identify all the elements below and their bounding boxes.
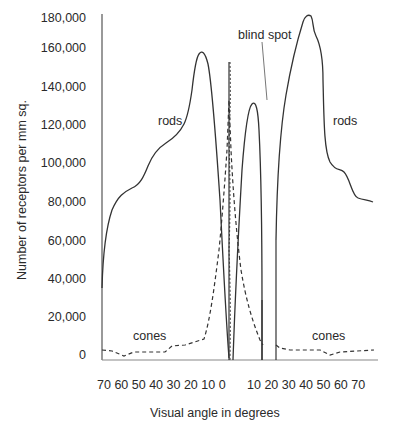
y-tick-0: 0 <box>6 348 86 362</box>
annotation-cones-right: cones <box>312 329 345 343</box>
annotation-rods-right: rods <box>333 114 357 128</box>
x-ticks-left: 70 60 50 40 30 20 10 0 <box>97 378 226 392</box>
x-axis-label: Visual angle in degrees <box>150 406 280 420</box>
chart-plot-area <box>0 0 395 434</box>
rods-curve-right <box>276 15 373 240</box>
annotation-rods-left: rods <box>158 114 182 128</box>
y-axis-label: Number of receptors per mm sq. <box>15 80 29 300</box>
blind-spot-pointer <box>262 42 267 100</box>
cones-curve <box>102 100 374 356</box>
annotation-blind-spot: blind spot <box>238 28 292 42</box>
annotation-cones-left: cones <box>133 329 166 343</box>
x-ticks-right: 10 20 30 40 50 60 70 <box>247 378 365 392</box>
y-tick-160000: 160,000 <box>6 41 86 55</box>
y-tick-180000: 180,000 <box>6 11 86 25</box>
y-tick-20000: 20,000 <box>6 310 86 324</box>
